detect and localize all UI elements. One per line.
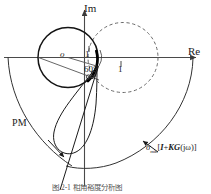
angle-label-60-degrees: 60° (84, 65, 97, 74)
imaginary-axis-label: Im (84, 3, 96, 14)
phase-margin-label: PM (12, 118, 27, 128)
jomega-argument: (jω) (180, 142, 194, 152)
unit-label-vertical: 1 (85, 50, 90, 59)
origin-label: o (60, 50, 65, 59)
figure-caption: 图 2-1 相角裕度分析图 (52, 184, 172, 193)
nyquist-phase-margin-figure: Im Re o 60° 1 1 PM σmin[I+KG(jω)] 图 2-1 … (0, 0, 211, 194)
bracket-close: ] (194, 142, 197, 152)
unit-label-horizontal: 1 (118, 65, 123, 74)
kg-matrix-symbol: KG (168, 142, 180, 152)
figure-canvas (0, 0, 211, 194)
real-axis-label: Re (188, 46, 200, 57)
sigma-min-expression-label: σmin[I+KG(jω)] (146, 143, 197, 154)
